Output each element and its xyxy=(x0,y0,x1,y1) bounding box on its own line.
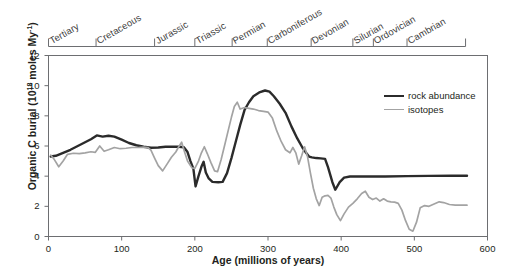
y-tick-label: 0 xyxy=(18,231,40,242)
series-line-isotopes xyxy=(51,102,467,231)
y-tick-label: 2 xyxy=(18,200,40,211)
legend-label-rock-abundance: rock abundance xyxy=(408,90,476,101)
x-tick-label: 300 xyxy=(253,243,283,254)
x-tick-label: 200 xyxy=(180,243,210,254)
series-line-rock-abundance xyxy=(51,90,467,189)
x-tick-label: 100 xyxy=(107,243,137,254)
x-axis-title: Age (millions of years) xyxy=(48,254,488,266)
legend-swatch-isotopes xyxy=(384,109,404,110)
legend-swatch-rock-abundance xyxy=(384,95,404,97)
x-tick-label: 500 xyxy=(399,243,429,254)
y-axis-title: Organic C burial (1018 moles My-1) xyxy=(26,11,39,201)
legend-label-isotopes: isotopes xyxy=(408,104,443,115)
x-tick-label: 600 xyxy=(473,243,503,254)
chart-canvas xyxy=(0,0,509,275)
x-tick-label: 0 xyxy=(34,243,64,254)
plot-frame xyxy=(49,56,488,237)
x-tick-label: 400 xyxy=(326,243,356,254)
chart-figure: TertiaryCretaceousJurassicTriassicPermia… xyxy=(0,0,509,275)
